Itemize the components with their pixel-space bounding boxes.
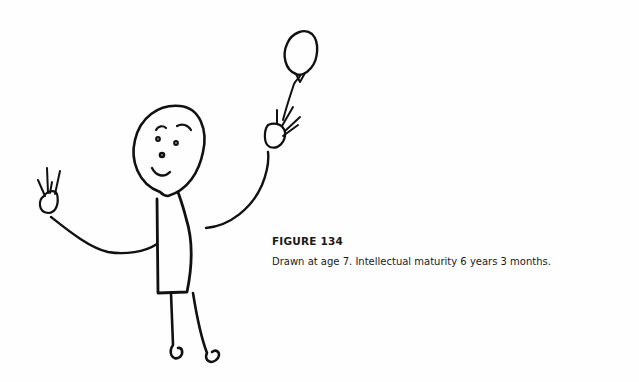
figure-page: FIGURE 134 Drawn at age 7. Intellectual … bbox=[0, 0, 639, 382]
balloon bbox=[285, 31, 318, 75]
head-outline bbox=[134, 106, 205, 196]
right-hand bbox=[265, 124, 285, 148]
right-leg bbox=[193, 293, 219, 362]
left-eyebrow bbox=[156, 126, 166, 130]
figure-label: FIGURE 134 bbox=[272, 235, 551, 247]
right-fingers bbox=[277, 107, 300, 136]
left-arm bbox=[51, 217, 157, 253]
right-eye bbox=[174, 141, 178, 145]
left-eye bbox=[156, 137, 160, 141]
figure-caption: FIGURE 134 Drawn at age 7. Intellectual … bbox=[272, 235, 551, 267]
body-outline bbox=[157, 192, 191, 293]
right-eyebrow bbox=[177, 125, 191, 130]
nose bbox=[160, 153, 164, 157]
right-arm bbox=[206, 152, 268, 228]
balloon-string bbox=[283, 76, 300, 120]
figure-description: Drawn at age 7. Intellectual maturity 6 … bbox=[272, 256, 551, 267]
left-leg bbox=[171, 293, 182, 358]
mouth bbox=[152, 168, 170, 175]
child-drawing bbox=[0, 0, 639, 382]
